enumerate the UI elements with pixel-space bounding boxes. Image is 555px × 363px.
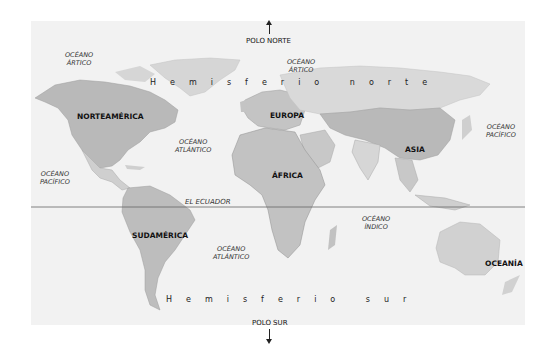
asia-shape — [320, 108, 455, 160]
equator-label: EL ECUADOR — [185, 198, 231, 206]
greenland-shape — [150, 58, 240, 96]
continent-europe: EUROPA — [270, 112, 304, 120]
south-arrow-head-icon — [266, 339, 272, 344]
continent-oceania: OCEANÍA — [485, 260, 523, 268]
continent-asia: ASIA — [405, 146, 425, 154]
continent-africa: ÁFRICA — [272, 172, 303, 180]
ocean-atlantic-south: OCÉANO ATLÁNTICO — [213, 245, 249, 261]
south-pole-label: POLO SUR — [252, 319, 288, 327]
ocean-pacific-east: OCÉANO PACÍFICO — [486, 123, 516, 139]
northern-hemisphere-label: Hemisferio norte — [150, 78, 441, 87]
continent-south-america: SUDAMÉRICA — [132, 232, 188, 240]
continent-north-america: NORTEAMÉRICA — [77, 113, 144, 121]
north-pole-label: POLO NORTE — [246, 37, 291, 45]
ocean-arctic-west: OCÉANO ÁRTICO — [65, 51, 93, 67]
ocean-arctic-east: OCÉANO ÁRTICO — [287, 58, 315, 74]
ocean-indian: OCÉANO ÍNDICO — [362, 215, 390, 231]
ocean-atlantic-north: OCÉANO ATLÁNTICO — [175, 138, 211, 154]
north-america-shape — [35, 80, 178, 168]
southern-hemisphere-label: Hemisferio sur — [166, 295, 420, 304]
ocean-pacific-west: OCÉANO PACÍFICO — [40, 170, 70, 186]
north-arrow-head-icon — [266, 20, 272, 25]
